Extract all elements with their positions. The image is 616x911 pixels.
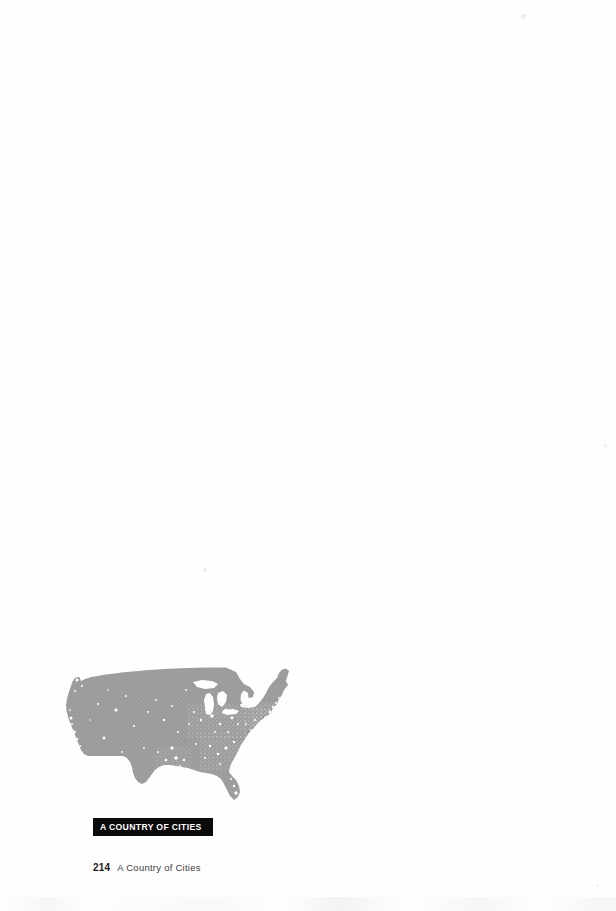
scan-speck — [604, 444, 607, 447]
dot-cluster-midwest — [188, 704, 246, 738]
running-title: A Country of Cities — [117, 862, 200, 873]
dot-cluster-texas — [156, 746, 192, 768]
scan-speck — [521, 14, 526, 19]
scan-speck — [596, 884, 599, 887]
scan-speck — [203, 568, 207, 572]
figure-caption-banner: A COUNTRY OF CITIES — [93, 818, 213, 836]
page-footer: 214 A Country of Cities — [93, 862, 201, 873]
scan-edge-noise — [0, 897, 616, 911]
dot-cluster-northeast — [243, 697, 287, 736]
book-page: A COUNTRY OF CITIES 214 A Country of Cit… — [0, 0, 616, 911]
figure-caption-text: A COUNTRY OF CITIES — [100, 823, 202, 832]
dot-cluster-southeast — [200, 736, 246, 795]
figure-us-map — [60, 660, 310, 812]
page-number: 214 — [93, 862, 110, 873]
us-map-graphic — [60, 660, 310, 812]
